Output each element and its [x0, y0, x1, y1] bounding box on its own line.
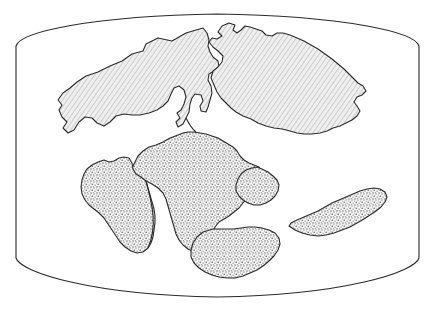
landmass-layer: North America (Laurasia west)Eurasia (La… [58, 23, 387, 278]
map-canvas: North America (Laurasia west)Eurasia (La… [0, 0, 436, 312]
landmass-outline-gondwana-australia: Australia [289, 188, 387, 236]
landmass-outline-laurasia-eurasia: Eurasia (Laurasia east) [209, 23, 366, 134]
landmass-gondwana-australia: Australia [289, 188, 387, 236]
landmass-outline-gondwana-india: India [236, 167, 279, 205]
landmass-laurasia-north-america: North America (Laurasia west) [58, 28, 219, 133]
landmass-outline-gondwana-antarctica: Antarctica [191, 227, 280, 278]
landmass-gondwana-antarctica: Antarctica [191, 227, 280, 278]
pangaea-map-figure: North America (Laurasia west)Eurasia (La… [0, 0, 436, 312]
landmass-laurasia-eurasia: Eurasia (Laurasia east) [209, 23, 366, 134]
landmass-gondwana-india: India [236, 167, 279, 205]
landmass-outline-laurasia-north-america: North America (Laurasia west) [58, 28, 219, 133]
boundary-laurasia-gondwana-seam: Tethys seam [186, 118, 196, 132]
